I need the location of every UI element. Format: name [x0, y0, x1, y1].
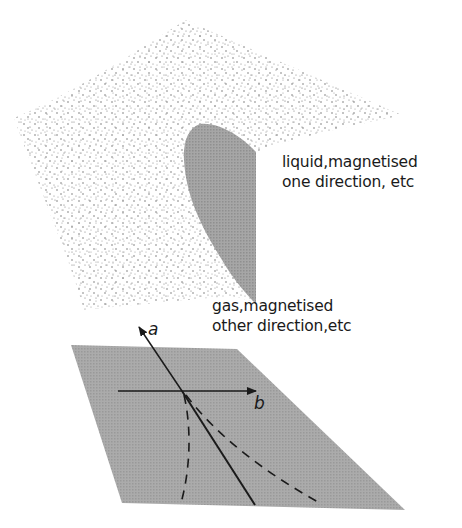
axis-a-label: a — [148, 319, 158, 339]
liquid-phase-label: liquid,magnetised one direction, etc — [282, 152, 418, 192]
axis-b-label: b — [254, 393, 265, 413]
gas-label-line1: gas,magnetised — [212, 296, 351, 316]
gas-phase-label: gas,magnetised other direction,etc — [212, 296, 351, 336]
liquid-label-line1: liquid,magnetised — [282, 152, 418, 172]
gas-label-line2: other direction,etc — [212, 316, 351, 336]
lower-plane — [71, 345, 405, 510]
phase-diagram — [0, 0, 462, 528]
liquid-label-line2: one direction, etc — [282, 172, 418, 192]
